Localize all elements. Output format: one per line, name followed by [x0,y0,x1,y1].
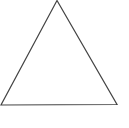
diagram-canvas [0,0,129,128]
triangle-shape [1,1,117,106]
triangle-diagram [0,0,129,128]
